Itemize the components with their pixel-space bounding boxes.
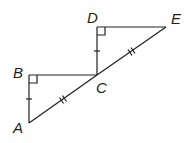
point-label-d: D — [87, 9, 98, 26]
right-angle-mark-b — [29, 75, 37, 83]
point-label-a: A — [12, 119, 23, 136]
geometry-diagram: D E B C A — [0, 0, 190, 143]
point-label-c: C — [96, 79, 107, 96]
right-angle-mark-d — [97, 27, 105, 35]
segment-ce — [97, 27, 166, 75]
segment-ac — [29, 75, 97, 123]
point-label-b: B — [13, 64, 23, 81]
point-label-e: E — [171, 10, 182, 27]
